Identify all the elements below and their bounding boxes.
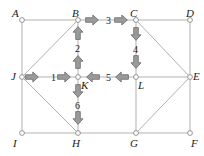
step-number-4: 4 — [133, 45, 138, 55]
node-label-L: L — [138, 80, 144, 91]
step-1-arrow-2 — [58, 72, 71, 82]
node-label-E: E — [193, 71, 200, 82]
step-2-arrow-1 — [73, 27, 83, 40]
graph-node-K[interactable] — [76, 75, 81, 80]
node-label-B: B — [72, 8, 79, 19]
arrow-layer — [26, 15, 141, 124]
graph-node-H[interactable] — [76, 131, 81, 136]
step-2-arrow-2 — [73, 56, 83, 69]
graph-node-E[interactable] — [188, 75, 193, 80]
graph-node-A[interactable] — [20, 18, 25, 23]
node-label-I: I — [13, 138, 17, 149]
step-3-arrow-1 — [86, 15, 99, 25]
graph-edge-JB — [22, 20, 78, 77]
step-number-3: 3 — [106, 16, 111, 26]
node-label-A: A — [12, 8, 19, 19]
step-5-arrow-2 — [87, 72, 100, 82]
node-label-K: K — [81, 80, 88, 91]
graph-node-G[interactable] — [134, 131, 139, 136]
step-4-arrow-1 — [131, 28, 141, 41]
step-number-5: 5 — [106, 73, 111, 83]
graph-node-J[interactable] — [20, 75, 25, 80]
step-6-arrow-2 — [73, 112, 83, 125]
step-number-1: 1 — [51, 73, 56, 83]
graph-edge-CE — [136, 20, 190, 77]
node-label-C: C — [130, 8, 137, 19]
node-label-J: J — [11, 71, 16, 82]
step-5-arrow-1 — [116, 72, 129, 82]
step-1-arrow-1 — [26, 72, 39, 82]
node-label-D: D — [186, 8, 194, 19]
step-number-2: 2 — [75, 44, 80, 54]
node-label-F: F — [191, 138, 198, 149]
graph-edge-JH — [22, 77, 78, 133]
step-3-arrow-2 — [115, 15, 128, 25]
node-label-H: H — [72, 138, 80, 149]
step-number-6: 6 — [75, 101, 80, 111]
graph-diagram: ABCDJKLEIHGF 123456 — [0, 0, 204, 156]
node-label-G: G — [130, 138, 138, 149]
graph-canvas — [0, 0, 204, 156]
graph-node-F[interactable] — [188, 131, 193, 136]
step-4-arrow-2 — [131, 56, 141, 69]
graph-node-I[interactable] — [20, 131, 25, 136]
